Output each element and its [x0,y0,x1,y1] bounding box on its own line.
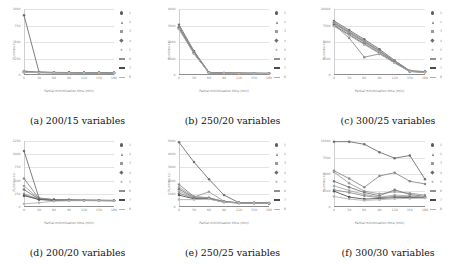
y-tick-label: 0 [329,73,331,77]
legend-label: 4 [129,171,131,175]
series-marker [208,178,211,181]
caption-d: (d) 200/20 variables [0,247,155,258]
legend-item-1[interactable]: 1 [272,141,304,149]
legend-label: 2 [284,152,286,156]
x-tick-label: 30 [37,76,41,80]
legend-label: 8 [284,207,286,211]
legend-item-5[interactable]: 5 [272,178,304,186]
legend-item-4[interactable]: 4 [428,37,460,45]
legend-item-6[interactable]: 6 [272,55,304,63]
legend-label: 8 [129,75,131,79]
series-marker [333,180,336,183]
legend-item-6[interactable]: 6 [428,187,460,195]
series-marker [53,72,56,75]
legend-item-6[interactable]: 6 [117,55,149,63]
x-tick-label: 150 [251,76,257,80]
legend-item-2[interactable]: 2 [272,18,304,26]
plot-f: Runtime (s) 100007500500025000 030609012… [310,135,466,229]
series-marker [23,203,26,206]
legend-item-1[interactable]: 1 [117,141,149,149]
legend-item-7[interactable]: 7 [428,64,460,72]
series-marker [333,140,336,143]
legend-item-2[interactable]: 2 [117,18,149,26]
legend-item-4[interactable]: 4 [117,37,149,45]
square-icon [272,159,281,167]
legend-item-3[interactable]: 3 [272,159,304,167]
legend-item-3[interactable]: 3 [117,27,149,35]
legend-item-6[interactable]: 6 [428,55,460,63]
series-marker [223,194,226,197]
legend-item-3[interactable]: 3 [428,159,460,167]
legend-item-7[interactable]: 7 [117,196,149,204]
legend-item-3[interactable]: 3 [428,27,460,35]
legend-item-7[interactable]: 7 [272,196,304,204]
diamond-icon [117,169,126,177]
x-tick-label: 90 [222,208,226,212]
legend-item-8[interactable]: 8 [117,73,149,81]
legend-item-8[interactable]: 8 [428,73,460,81]
legend-item-5[interactable]: 5 [117,178,149,186]
triangle-icon [117,18,126,26]
x-tick-label: 30 [192,208,196,212]
legend-item-5[interactable]: 5 [272,46,304,54]
legend-item-5[interactable]: 5 [428,178,460,186]
legend-item-7[interactable]: 7 [428,196,460,204]
legend-item-1[interactable]: 1 [428,141,460,149]
legend-item-1[interactable]: 1 [117,9,149,17]
legend-item-4[interactable]: 4 [272,37,304,45]
plot-a: Runtime (s) 10007505002500 0306090120150… [0,3,155,97]
legend-item-4[interactable]: 4 [272,169,304,177]
series-marker [178,183,181,186]
legend-label: 4 [284,39,286,43]
legend-item-1[interactable]: 1 [428,9,460,17]
legend-item-2[interactable]: 2 [117,150,149,158]
series-layer-a [24,9,114,75]
legend-item-1[interactable]: 1 [272,9,304,17]
x-tick-label: 30 [192,76,196,80]
series-marker [348,34,351,37]
series-marker [268,202,271,205]
legend-item-2[interactable]: 2 [428,150,460,158]
series-marker [253,72,256,75]
y-tick-label: 5000 [168,139,176,143]
legend-item-3[interactable]: 3 [117,159,149,167]
circle-icon [272,9,281,17]
diamond-icon [272,37,281,45]
legend-item-4[interactable]: 4 [428,169,460,177]
legend-item-5[interactable]: 5 [117,46,149,54]
legend-item-8[interactable]: 8 [428,205,460,213]
x-tick-label: 90 [378,208,382,212]
series-layer-c [334,9,425,75]
dash-icon [272,55,281,63]
legend-item-2[interactable]: 2 [428,18,460,26]
legend-item-2[interactable]: 2 [272,150,304,158]
series-layer-e [179,141,269,207]
legend-item-6[interactable]: 6 [272,187,304,195]
legend-item-4[interactable]: 4 [117,169,149,177]
series-marker [113,200,116,203]
axes-a: 10007505002500 0306090120150180 [24,9,114,75]
legend-item-6[interactable]: 6 [117,187,149,195]
legend-item-7[interactable]: 7 [117,64,149,72]
series-marker [409,154,412,157]
series-marker [348,186,351,189]
legend-item-8[interactable]: 8 [272,73,304,81]
legend-item-5[interactable]: 5 [428,46,460,54]
y-tick-label: 750 [15,24,21,28]
legend-item-8[interactable]: 8 [272,205,304,213]
y-ticks-f: 100007500500025000 [311,141,332,207]
triangle-icon [272,18,281,26]
x-tick-label: 0 [333,208,335,212]
legend-label: 4 [440,39,442,43]
series-marker [83,72,86,75]
series-marker [393,62,396,65]
x-axis-label-f: Partial minimisation time (min) [334,221,425,225]
legend-item-3[interactable]: 3 [272,27,304,35]
dash-light-icon [428,205,437,213]
y-ticks-e: 500040003000200010000 [156,141,177,207]
legend-item-8[interactable]: 8 [117,205,149,213]
y-tick-label: 0 [174,73,176,77]
y-tick-label: 2000 [168,179,176,183]
series-marker [238,72,241,75]
legend-item-7[interactable]: 7 [272,64,304,72]
